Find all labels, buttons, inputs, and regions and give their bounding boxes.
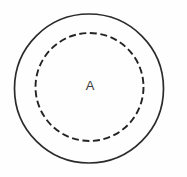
diagram-canvas: A — [0, 0, 187, 177]
concentric-circles-figure: A — [0, 0, 187, 177]
region-label-a: A — [86, 78, 95, 93]
